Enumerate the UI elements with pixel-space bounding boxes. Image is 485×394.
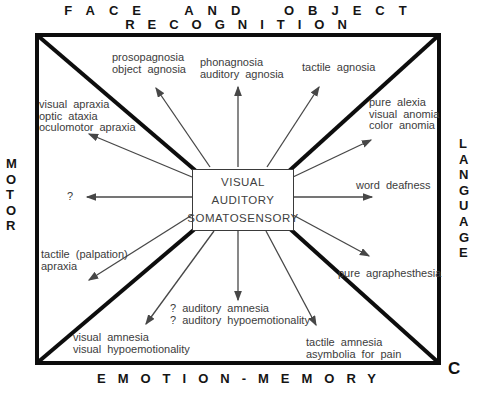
edge-label-language: LANGUAGE bbox=[459, 136, 473, 261]
center-box-somatosensory: SOMATOSENSORY bbox=[187, 212, 298, 224]
label-tactile-agnosia: tactile agnosia bbox=[302, 62, 375, 74]
label-tactile-amnesia: tactile amnesia asymbolia for pain bbox=[306, 337, 401, 360]
neuropsychology-quadrant-diagram: { "figure": { "top_edge_line1": "FACE AN… bbox=[0, 0, 485, 394]
edge-label-motor: MOTOR bbox=[6, 156, 20, 234]
central-sensory-box: VISUAL AUDITORY SOMATOSENSORY bbox=[192, 169, 294, 231]
label-visual-amnesia: visual amnesia visual hypoemotionality bbox=[73, 332, 190, 355]
label-auditory-amnesia: ? auditory amnesia ? auditory hypoemotio… bbox=[170, 303, 310, 326]
label-phonagnosia: phonagnosia auditory agnosia bbox=[200, 57, 284, 80]
label-pure-alexia: pure alexia visual anomia color anomia bbox=[369, 97, 439, 132]
label-pure-agraphesthesia: pure agraphesthesia bbox=[338, 268, 441, 280]
label-prosopagnosia: prosopagnosia object agnosia bbox=[112, 52, 186, 75]
center-box-visual: VISUAL bbox=[221, 176, 265, 188]
label-visual-apraxia: visual apraxia optic ataxia oculomotor a… bbox=[39, 99, 136, 134]
edge-label-face-and-object: FACE AND OBJECT bbox=[0, 3, 485, 18]
center-box-auditory: AUDITORY bbox=[211, 194, 274, 206]
label-unknown-motor: ? bbox=[67, 191, 73, 203]
arrow-pure-agraphesthesia bbox=[293, 215, 369, 256]
label-tactile-palpation-apraxia: tactile (palpation) apraxia bbox=[41, 249, 128, 272]
edge-label-recognition: RECOGNITION bbox=[0, 17, 485, 32]
label-word-deafness: word deafness bbox=[356, 180, 431, 192]
arrow-prosopagnosia bbox=[156, 88, 210, 167]
edge-label-emotion-memory: EMOTION-MEMORY bbox=[0, 371, 485, 386]
panel-letter: C bbox=[448, 359, 460, 379]
arrow-tactile-agnosia bbox=[267, 87, 319, 167]
